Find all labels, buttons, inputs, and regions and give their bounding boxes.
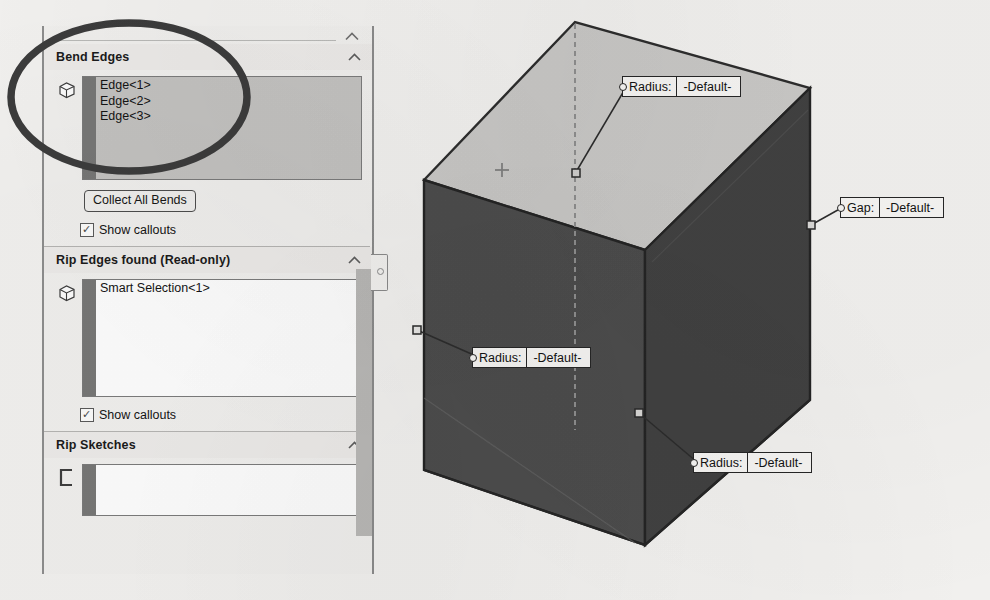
callout-right-gap[interactable]: Gap: -Default- <box>840 197 944 218</box>
show-callouts-label-bend: Show callouts <box>99 223 176 237</box>
section-header-bend-edges[interactable]: Bend Edges <box>44 44 372 70</box>
rip-edges-selection-row: Smart Selection<1> <box>44 273 372 397</box>
callout-anchor-icon <box>469 354 477 362</box>
collect-all-bends-row: Collect All Bends <box>44 180 372 212</box>
rip-edges-entries: Smart Selection<1> <box>96 280 361 396</box>
panel-collapse-chevron-icon[interactable] <box>344 28 360 46</box>
bend-edges-entries: Edge<1> Edge<2> Edge<3> <box>96 77 361 179</box>
callout-anchor-icon <box>690 459 698 467</box>
checkmark-icon: ✓ <box>82 224 92 234</box>
panel-scrollbar-thumb[interactable] <box>356 269 373 536</box>
callout-key: Radius: <box>473 348 527 367</box>
panel-right-border <box>372 26 374 574</box>
box-edge-icon <box>52 76 82 108</box>
property-manager-panel: Bend Edges Edge<1> Edge<2> Edge<3> <box>42 26 372 574</box>
callout-value[interactable]: -Default- <box>748 453 811 472</box>
callout-anchor-icon <box>837 204 845 212</box>
listbox-gutter <box>83 465 96 515</box>
callout-value[interactable]: -Default- <box>880 198 943 217</box>
handle-square-bottom <box>635 409 643 417</box>
bend-edges-listbox[interactable]: Edge<1> Edge<2> Edge<3> <box>82 76 362 180</box>
callout-key: Radius: <box>623 77 677 96</box>
rip-edges-listbox[interactable]: Smart Selection<1> <box>82 279 362 397</box>
sketch-profile-icon <box>52 464 82 506</box>
callout-left-radius[interactable]: Radius: -Default- <box>472 347 591 368</box>
section-title-rip-sketches: Rip Sketches <box>56 438 136 452</box>
panel-top-divider <box>46 40 336 41</box>
list-item[interactable]: Edge<3> <box>100 109 361 125</box>
list-item[interactable]: Edge<1> <box>100 78 361 94</box>
show-callouts-checkbox-bend[interactable]: ✓ <box>80 223 94 237</box>
splitter-dot-icon <box>377 268 384 275</box>
collect-all-bends-button[interactable]: Collect All Bends <box>84 190 196 212</box>
callout-key: Radius: <box>694 453 748 472</box>
handle-square-right <box>807 221 815 229</box>
callout-anchor-icon <box>619 83 627 91</box>
show-callouts-row-bend[interactable]: ✓ Show callouts <box>44 212 372 246</box>
chevron-up-icon[interactable] <box>347 52 362 62</box>
callout-top-radius[interactable]: Radius: -Default- <box>622 76 741 97</box>
bend-edges-selection-row: Edge<1> Edge<2> Edge<3> <box>44 70 372 180</box>
callout-value[interactable]: -Default- <box>527 348 590 367</box>
listbox-gutter <box>83 77 96 179</box>
show-callouts-checkbox-rip[interactable]: ✓ <box>80 408 94 422</box>
section-title-bend-edges: Bend Edges <box>56 50 129 64</box>
listbox-gutter <box>83 280 96 396</box>
checkmark-icon: ✓ <box>82 409 92 419</box>
rip-sketches-selection-row <box>44 458 372 516</box>
show-callouts-label-rip: Show callouts <box>99 408 176 422</box>
panel-scrollbar[interactable] <box>356 269 373 536</box>
callout-value[interactable]: -Default- <box>677 77 740 96</box>
section-rip-edges-found: Rip Edges found (Read-only) Smart Select… <box>44 247 372 431</box>
section-header-rip-edges-found[interactable]: Rip Edges found (Read-only) <box>44 247 372 273</box>
handle-square-top <box>572 169 580 177</box>
section-title-rip-edges-found: Rip Edges found (Read-only) <box>56 253 230 267</box>
callout-bottom-radius[interactable]: Radius: -Default- <box>693 452 812 473</box>
section-header-rip-sketches[interactable]: Rip Sketches <box>44 432 372 458</box>
list-item[interactable]: Smart Selection<1> <box>100 281 361 297</box>
show-callouts-row-rip[interactable]: ✓ Show callouts <box>44 397 372 431</box>
rip-sketches-listbox[interactable] <box>82 464 362 516</box>
section-rip-sketches: Rip Sketches <box>44 432 372 516</box>
callout-key: Gap: <box>841 198 880 217</box>
box-edge-icon <box>52 279 82 311</box>
chevron-up-icon[interactable] <box>347 255 362 265</box>
graphics-viewport[interactable]: Radius: -Default- Gap: -Default- Radius:… <box>390 0 990 600</box>
section-bend-edges: Bend Edges Edge<1> Edge<2> Edge<3> <box>44 44 372 246</box>
handle-square-left <box>413 326 421 334</box>
rip-sketches-entries <box>96 465 361 515</box>
list-item[interactable]: Edge<2> <box>100 94 361 110</box>
